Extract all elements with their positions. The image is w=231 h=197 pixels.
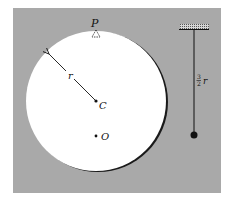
label-length-denominator: 2	[197, 80, 201, 87]
point-c	[94, 99, 97, 102]
label-p: P	[90, 17, 99, 30]
pendulum-bob	[191, 132, 198, 139]
label-o: O	[101, 131, 109, 142]
label-length-numerator: 3	[197, 73, 201, 80]
pendulum-ceiling	[180, 24, 209, 29]
label-c: C	[99, 100, 107, 111]
diagram: P r C O 3 2 r	[0, 0, 231, 197]
label-length-variable: r	[203, 76, 208, 86]
point-o	[95, 135, 98, 138]
